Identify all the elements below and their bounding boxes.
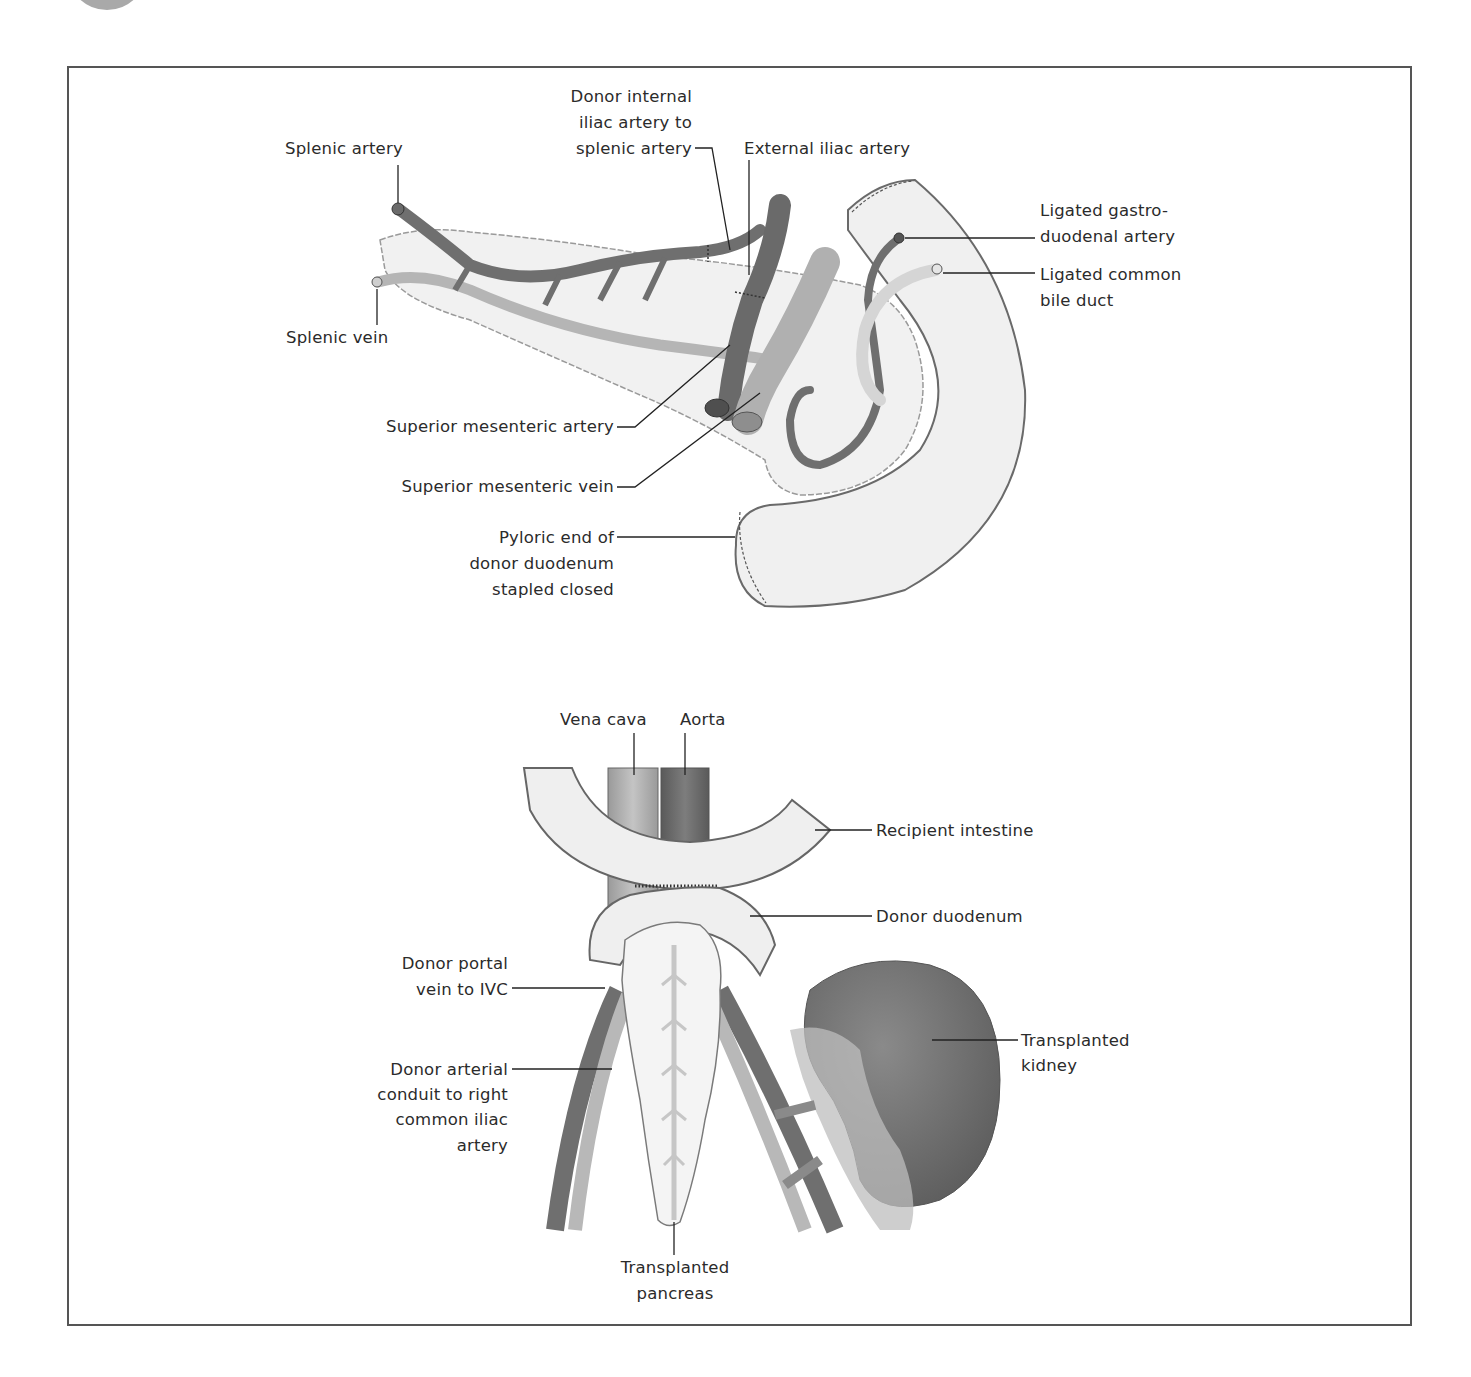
label-external-iliac-artery: External iliac artery <box>744 136 910 162</box>
bottom-diagram <box>512 733 1018 1255</box>
label-recipient-intestine: Recipient intestine <box>876 818 1034 844</box>
label-transplanted-kidney-line2: kidney <box>1021 1053 1077 1079</box>
label-ligated-gastroduodenal-line1: Ligated gastro- <box>1040 198 1168 224</box>
label-pyloric-end-line2: donor duodenum <box>430 551 614 577</box>
label-donor-arterial-conduit-line2: conduit to right <box>350 1082 508 1108</box>
label-ligated-bile-duct-line1: Ligated common <box>1040 262 1181 288</box>
label-donor-internal-iliac-line2: iliac artery to <box>540 110 692 136</box>
label-transplanted-kidney-line1: Transplanted <box>1021 1028 1130 1054</box>
label-transplanted-pancreas-line1: Transplanted <box>600 1255 750 1281</box>
label-donor-arterial-conduit-line3: common iliac <box>350 1107 508 1133</box>
label-splenic-vein: Splenic vein <box>286 325 388 351</box>
label-superior-mesenteric-artery: Superior mesenteric artery <box>330 414 614 440</box>
label-donor-internal-iliac-line3: splenic artery <box>540 136 692 162</box>
label-donor-duodenum: Donor duodenum <box>876 904 1023 930</box>
label-aorta: Aorta <box>680 707 725 733</box>
label-pyloric-end-line1: Pyloric end of <box>430 525 614 551</box>
label-transplanted-pancreas-line2: pancreas <box>600 1281 750 1307</box>
label-splenic-artery: Splenic artery <box>285 136 403 162</box>
label-ligated-bile-duct-line2: bile duct <box>1040 288 1113 314</box>
label-donor-arterial-conduit-line1: Donor arterial <box>350 1057 508 1083</box>
label-superior-mesenteric-vein: Superior mesenteric vein <box>330 474 614 500</box>
label-ligated-gastroduodenal-line2: duodenal artery <box>1040 224 1175 250</box>
anatomy-illustration <box>0 0 1471 1377</box>
label-donor-portal-vein-line1: Donor portal <box>350 951 508 977</box>
label-donor-internal-iliac-line1: Donor internal <box>540 84 692 110</box>
label-donor-arterial-conduit-line4: artery <box>350 1133 508 1159</box>
label-donor-portal-vein-line2: vein to IVC <box>350 977 508 1003</box>
label-pyloric-end-line3: stapled closed <box>430 577 614 603</box>
label-vena-cava: Vena cava <box>560 707 647 733</box>
transplanted-pancreas <box>622 922 721 1225</box>
